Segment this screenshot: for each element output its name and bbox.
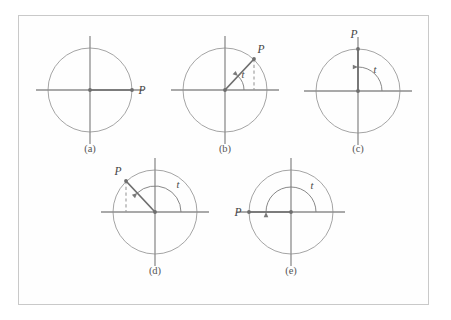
angle-arc-c xyxy=(358,67,382,91)
origin-dot-b xyxy=(223,88,227,92)
panel-b: tP(b) xyxy=(171,36,279,155)
panel-d: tP(d) xyxy=(101,158,209,277)
terminal-point-label-c: P xyxy=(349,28,357,40)
panel-c: tP(c) xyxy=(304,28,412,155)
terminal-point-label-b: P xyxy=(256,43,264,55)
terminal-radius-b xyxy=(225,59,254,90)
terminal-point-dot-e xyxy=(247,210,251,214)
panel-a: P(a) xyxy=(36,36,146,155)
terminal-point-label-e: P xyxy=(233,206,241,218)
panel-e: tP(e) xyxy=(233,158,345,277)
unit-circle-figure: P(a)tP(b)tP(c)tP(d)tP(e) xyxy=(0,0,451,320)
panel-caption-d: (d) xyxy=(149,265,162,277)
origin-dot-e xyxy=(289,210,293,214)
origin-dot-d xyxy=(153,210,157,214)
panel-caption-c: (c) xyxy=(352,143,364,155)
panel-caption-e: (e) xyxy=(285,265,297,277)
angle-arc-arrowhead-b xyxy=(233,71,238,76)
angle-label-e: t xyxy=(311,180,315,191)
panel-caption-b: (b) xyxy=(219,143,232,155)
terminal-point-dot-c xyxy=(356,47,360,51)
terminal-point-dot-d xyxy=(124,179,128,183)
panel-caption-a: (a) xyxy=(84,143,96,155)
terminal-point-dot-b xyxy=(252,57,256,61)
figure-root: P(a)tP(b)tP(c)tP(d)tP(e) xyxy=(0,0,451,320)
angle-label-c: t xyxy=(374,64,378,75)
terminal-point-dot-a xyxy=(130,88,134,92)
angle-arc-arrowhead-d xyxy=(132,193,137,198)
terminal-point-label-a: P xyxy=(137,84,145,96)
figure-frame-outline xyxy=(19,16,429,305)
angle-label-d: t xyxy=(177,179,181,190)
origin-dot-a xyxy=(88,88,92,92)
origin-dot-c xyxy=(356,89,360,93)
terminal-radius-d xyxy=(126,181,155,212)
terminal-point-label-d: P xyxy=(113,165,121,177)
